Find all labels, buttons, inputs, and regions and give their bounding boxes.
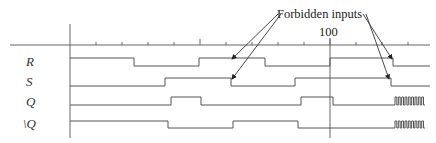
timing-diagram: 100 R S Q \Q Forbidden inputs (0, 0, 436, 143)
time-marker-label: 100 (319, 25, 338, 39)
waveform-r (70, 58, 430, 66)
waveform-q-bar (70, 121, 425, 128)
signal-label-r: R (25, 54, 34, 69)
signal-label-q: Q (26, 94, 36, 109)
waveform-s (70, 78, 430, 86)
waveform-q (70, 97, 425, 105)
signal-label-s: S (26, 74, 33, 89)
arrow-to-s-forbidden-2 (366, 14, 389, 79)
arrow-to-r-forbidden-2 (363, 14, 392, 59)
forbidden-inputs-annotation: Forbidden inputs (277, 7, 362, 21)
arrow-to-s-forbidden-1 (232, 14, 281, 79)
arrow-to-r-forbidden-1 (232, 14, 278, 59)
signal-label-q-bar: \Q (23, 116, 37, 131)
waveforms (70, 58, 430, 128)
